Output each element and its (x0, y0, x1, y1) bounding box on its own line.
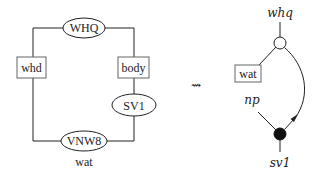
arrowhead-icon (291, 114, 299, 122)
node-whq-label: WHQ (70, 21, 99, 35)
node-body-label: body (122, 61, 146, 75)
node-sv1-label: SV1 (123, 99, 144, 113)
left-caption: wat (75, 155, 93, 169)
edge-whq-whd (33, 28, 63, 57)
open-node-icon (274, 37, 286, 49)
edge-whq-body (105, 28, 134, 57)
label-sv1: sv1 (270, 156, 291, 170)
node-wat: wat (235, 65, 261, 82)
edge-circle-wat (259, 47, 276, 65)
filled-node-icon (274, 128, 286, 140)
left-graph: whd body WHQ SV1 VNW8 wat (17, 18, 156, 169)
node-whd-label: whd (21, 61, 42, 75)
node-vnw8-label: VNW8 (67, 134, 102, 148)
label-np: np (244, 93, 260, 107)
node-whq: WHQ (63, 18, 105, 38)
node-sv1: SV1 (112, 94, 156, 116)
node-wat-label: wat (239, 67, 257, 81)
edge-whd-vnw8 (33, 78, 61, 141)
squiggle-arrow-icon: ⇝ (191, 78, 201, 92)
diagram-canvas: whd body WHQ SV1 VNW8 wat ⇝ whq (0, 0, 324, 180)
node-vnw8: VNW8 (61, 131, 107, 151)
right-graph: whq wat np sv1 (235, 6, 305, 170)
edge-sv1-vnw8 (107, 116, 134, 141)
node-body: body (118, 57, 149, 78)
node-whd: whd (17, 57, 46, 78)
label-whq: whq (267, 6, 293, 20)
edge-np (258, 112, 276, 130)
